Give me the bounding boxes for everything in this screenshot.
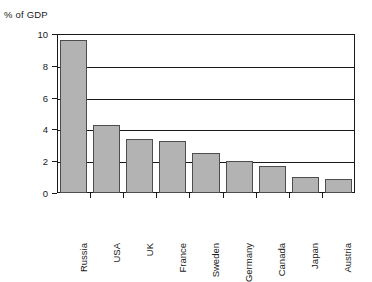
chart-axis-title: % of GDP xyxy=(4,9,48,20)
bar xyxy=(192,153,219,193)
bar xyxy=(93,125,120,193)
x-axis-category-label: Austria xyxy=(342,243,353,273)
x-axis-category-label: Japan xyxy=(309,243,320,269)
bar xyxy=(126,139,153,193)
x-axis-category-label: USA xyxy=(111,243,122,263)
y-axis-tick-label: 4 xyxy=(0,124,48,135)
bar xyxy=(226,161,253,193)
y-axis-tick-label: 10 xyxy=(0,29,48,40)
y-axis-tick-label: 2 xyxy=(0,156,48,167)
bar xyxy=(60,40,87,193)
x-axis-category-label: Sweden xyxy=(210,243,221,277)
y-axis-tick-label: 8 xyxy=(0,60,48,71)
x-axis-labels: RussiaUSAUKFranceSwedenGermanyCanadaJapa… xyxy=(57,197,355,246)
bar xyxy=(325,179,352,193)
bar xyxy=(292,177,319,193)
bar xyxy=(259,166,286,193)
x-axis-category-label: Germany xyxy=(243,243,254,282)
x-axis-category-label: France xyxy=(177,243,188,273)
bars-group xyxy=(57,34,355,193)
y-axis-tick-label: 0 xyxy=(0,188,48,199)
x-axis-category-label: UK xyxy=(144,243,155,256)
x-axis-category-label: Canada xyxy=(276,243,287,276)
x-axis-category-label: Russia xyxy=(78,243,89,272)
y-axis-tick-label: 6 xyxy=(0,92,48,103)
bar xyxy=(159,141,186,193)
